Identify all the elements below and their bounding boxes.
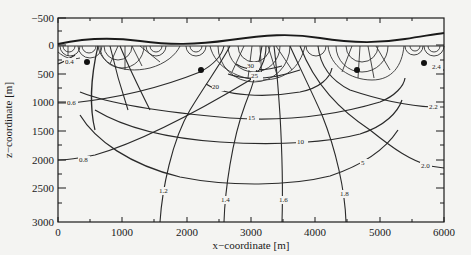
label-head-5: 5 — [361, 159, 365, 167]
y-axis-title: z−coordinate [m] — [2, 82, 14, 158]
label-stream-0.4: 0.4 — [65, 58, 74, 66]
marker-dot-4 — [421, 60, 427, 66]
y-tick-labels: −500 0 500 1000 1500 2000 2500 3000 — [31, 12, 54, 228]
local-flow-cells-right — [405, 46, 444, 56]
svg-text:0: 0 — [49, 39, 55, 51]
svg-text:6000: 6000 — [433, 226, 456, 238]
label-head-15: 15 — [248, 114, 256, 122]
svg-text:−500: −500 — [31, 12, 54, 24]
stream-contour-1.8 — [290, 46, 346, 222]
stream-fan-right — [328, 46, 404, 80]
svg-text:1000: 1000 — [111, 226, 134, 238]
svg-text:0: 0 — [55, 226, 61, 238]
marker-dot-2 — [198, 67, 204, 73]
head-contour-outer — [92, 46, 98, 130]
svg-text:4000: 4000 — [304, 226, 327, 238]
label-head-20: 20 — [212, 83, 220, 91]
label-head-10: 10 — [297, 138, 305, 146]
label-stream-2.0: 2.0 — [421, 162, 430, 170]
head-contour-25 — [228, 70, 300, 78]
svg-text:3000: 3000 — [32, 216, 55, 228]
svg-text:1500: 1500 — [32, 125, 55, 137]
x-axis-title: x−coordinate [m] — [213, 239, 290, 251]
label-stream-0.8: 0.8 — [79, 156, 88, 164]
svg-text:1000: 1000 — [32, 96, 55, 108]
svg-text:2500: 2500 — [32, 182, 55, 194]
contour-chart: 30 25 20 15 10 5 0.4 0.6 0.8 1.2 1.4 1.6… — [0, 0, 471, 255]
label-stream-0.6: 0.6 — [67, 99, 76, 107]
label-stream-1.4: 1.4 — [221, 196, 230, 204]
label-head-30: 30 — [247, 62, 255, 70]
svg-text:500: 500 — [38, 68, 55, 80]
label-stream-2.2: 2.2 — [429, 103, 438, 111]
label-stream-1.6: 1.6 — [279, 196, 288, 204]
svg-text:3000: 3000 — [240, 226, 263, 238]
label-stream-1.2: 1.2 — [159, 187, 168, 195]
contour-labels: 30 25 20 15 10 5 0.4 0.6 0.8 1.2 1.4 1.6… — [64, 58, 443, 204]
stream-contour-1.2 — [160, 46, 230, 222]
svg-text:2000: 2000 — [176, 226, 199, 238]
label-stream-2.4: 2.4 — [432, 63, 441, 71]
marker-dot-3 — [354, 67, 360, 73]
water-table-surface — [58, 33, 444, 44]
svg-text:5000: 5000 — [369, 226, 392, 238]
svg-text:2000: 2000 — [32, 154, 55, 166]
marker-dot-1 — [84, 59, 90, 65]
x-tick-labels: 0 1000 2000 3000 4000 5000 6000 — [55, 226, 455, 238]
label-stream-1.8: 1.8 — [340, 190, 349, 198]
label-head-25: 25 — [251, 72, 259, 80]
